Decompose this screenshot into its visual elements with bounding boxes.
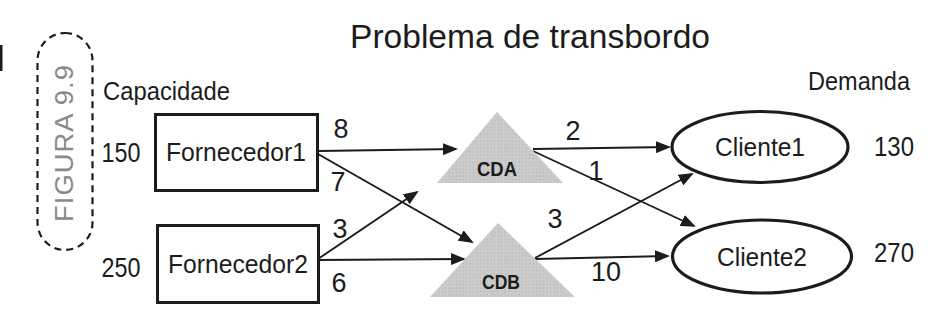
- diagram-title: Problema de transbordo: [350, 18, 710, 55]
- edge-cost-cdb-cliente2: 10: [591, 257, 621, 287]
- supplier2-capacity-value: 250: [102, 253, 141, 283]
- arrow-fornecedor2-cdb: [318, 259, 464, 260]
- scan-artifact-mark: [0, 45, 3, 71]
- demand-label: Demanda: [808, 66, 910, 96]
- transshipment-diagram: FIGURA 9.9 Problema de transbordo Capaci…: [0, 0, 946, 324]
- client1-label: Cliente1: [715, 132, 805, 162]
- client2-demand-value: 270: [874, 238, 914, 268]
- client2-label: Cliente2: [717, 242, 807, 272]
- arrow-cda-cliente1: [533, 147, 669, 149]
- figure-label: FIGURA 9.9: [49, 64, 79, 222]
- hub-cdb-label: CDB: [482, 271, 520, 293]
- hub-cda-label: CDA: [477, 158, 517, 180]
- supplier2-label: Fornecedor2: [168, 249, 308, 279]
- edge-cost-fornecedor2-cdb: 6: [331, 268, 346, 298]
- edge-cost-cda-cliente1: 2: [565, 116, 580, 146]
- supplier1-capacity-value: 150: [102, 138, 141, 168]
- arrow-fornecedor1-cda: [318, 149, 456, 151]
- capacity-label: Capacidade: [103, 76, 230, 106]
- edge-cost-fornecedor1-cdb: 7: [330, 167, 345, 197]
- edge-cost-cda-cliente2: 1: [588, 156, 603, 186]
- figure-container: FIGURA 9.9 Problema de transbordo Capaci…: [0, 0, 946, 324]
- edge-cost-fornecedor1-cda: 8: [333, 114, 348, 144]
- edge-cost-fornecedor2-cda: 3: [332, 214, 347, 244]
- edge-cost-cdb-cliente1: 3: [547, 204, 562, 234]
- supplier1-label: Fornecedor1: [166, 137, 306, 167]
- client1-demand-value: 130: [874, 132, 914, 162]
